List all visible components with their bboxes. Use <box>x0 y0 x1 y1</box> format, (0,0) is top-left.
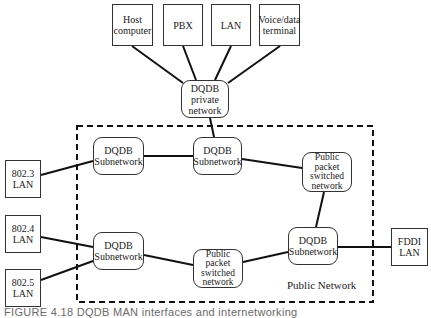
pbx-label: PBX <box>173 20 192 31</box>
fddi-lan-label: FDDI LAN <box>398 236 421 258</box>
dqdb-subnetwork-top-mid-node: DQDB Subnetwork <box>193 137 242 175</box>
dqdb-subnetwork-top-left-label: DQDB Subnetwork <box>94 145 142 167</box>
lan-802-5-node: 802.5 LAN <box>5 269 41 307</box>
lan-802-4-label: 802.4 LAN <box>12 223 35 245</box>
public-network-label: Public Network <box>287 279 356 291</box>
dqdb-subnetwork-top-mid-label: DQDB Subnetwork <box>193 145 241 167</box>
dqdb-subnetwork-top-left-node: DQDB Subnetwork <box>93 137 144 175</box>
public-packet-switched-network-bottom-label: Public packet switched network <box>201 250 235 288</box>
dqdb-subnetwork-bottom-right-node: DQDB Subnetwork <box>288 227 338 265</box>
dqdb-private-network-label: DQDB private network <box>189 83 222 116</box>
lan-node: LAN <box>211 4 251 46</box>
lan-802-4-node: 802.4 LAN <box>5 215 41 253</box>
dqdb-subnetwork-bottom-left-node: DQDB Subnetwork <box>93 232 144 270</box>
dqdb-subnetwork-bottom-left-label: DQDB Subnetwork <box>94 240 142 262</box>
public-packet-switched-network-top-node: Public packet switched network <box>302 152 352 192</box>
public-packet-switched-network-bottom-node: Public packet switched network <box>193 249 243 288</box>
fddi-lan-node: FDDI LAN <box>391 228 428 266</box>
dqdb-subnetwork-bottom-right-label: DQDB Subnetwork <box>289 235 337 257</box>
lan-802-3-label: 802.3 LAN <box>12 168 35 190</box>
figure-caption: FIGURE 4.18 DQDB MAN interfaces and inte… <box>4 306 297 318</box>
host-computer-label: Host computer <box>114 14 152 36</box>
voice-data-terminal-node: Voice/data terminal <box>259 4 300 46</box>
host-computer-node: Host computer <box>112 4 153 46</box>
lan-802-5-label: 802.5 LAN <box>12 277 35 299</box>
lan-802-3-node: 802.3 LAN <box>5 160 41 198</box>
public-packet-switched-network-top-label: Public packet switched network <box>310 153 344 191</box>
pbx-node: PBX <box>163 4 203 46</box>
lan-label: LAN <box>221 20 242 31</box>
dqdb-private-network-node: DQDB private network <box>181 80 229 118</box>
voice-data-terminal-label: Voice/data terminal <box>258 14 300 36</box>
